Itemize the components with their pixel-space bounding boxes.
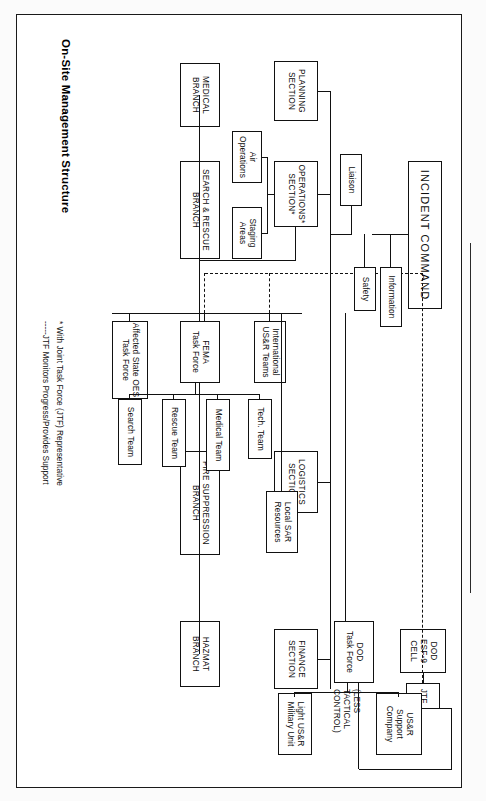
- node-air-operations[interactable]: Air Operations: [232, 131, 262, 183]
- node-information[interactable]: Information: [380, 267, 402, 327]
- link-bus-finance: [318, 659, 331, 660]
- link-ic-liaison: [351, 206, 352, 234]
- link-sar-dodtf: [345, 313, 346, 621]
- link-jtf-top: [451, 708, 452, 770]
- link-dodtf-light: [294, 692, 295, 697]
- node-safety[interactable]: Safety: [354, 267, 376, 311]
- node-affected-state-oes[interactable]: Affected State OES Task Force: [112, 321, 148, 399]
- node-staging-areas[interactable]: Staging Areas: [232, 207, 262, 259]
- node-medical-branch[interactable]: MEDICAL BRANCH: [180, 63, 220, 127]
- link-fema-tech: [259, 394, 260, 399]
- branch-bus-riser: [200, 260, 296, 261]
- scanned-page: On-Site Management Structure (LESS TACTI…: [0, 0, 486, 801]
- node-usr-support-company[interactable]: US&R Support Company: [376, 693, 422, 755]
- dashed-jtf-to-intl-usr: [269, 273, 270, 313]
- link-ops-subbus: [267, 157, 268, 233]
- link-fema-out: [195, 383, 196, 395]
- node-rescue-team[interactable]: Rescue Team: [162, 399, 186, 467]
- node-dod-task-force[interactable]: DOD Task Force: [334, 621, 374, 683]
- node-light-usr-military-unit[interactable]: Light US&R Military Unit: [278, 693, 312, 755]
- margin-rule: [470, 243, 471, 593]
- page-title: On-Site Management Structure: [60, 39, 72, 213]
- node-incident-command[interactable]: INCIDENT COMMAND: [408, 161, 442, 309]
- dashed-jtf-to-fema: [204, 273, 205, 313]
- link-sar-out: [199, 259, 200, 289]
- node-tech-team[interactable]: Tech. Team: [248, 399, 272, 459]
- footnote-jtf-rep: * With Joint Task Force (JTF) Representa…: [54, 321, 66, 486]
- link-sar-fema: [204, 313, 205, 321]
- section-bus: [330, 91, 331, 689]
- link-bus-logistics: [318, 482, 331, 483]
- link-fema-search: [129, 394, 130, 399]
- link-ic-safety: [364, 234, 365, 267]
- link-sar-localsar: [281, 313, 282, 491]
- node-planning-section[interactable]: PLANNING SECTION: [274, 61, 318, 121]
- link-bus-planning: [318, 91, 331, 92]
- link-sar-to-childbus: [199, 289, 200, 315]
- node-liaison[interactable]: Liaison: [340, 154, 362, 206]
- node-search-rescue-branch[interactable]: SEARCH & RESCUE BRANCH: [180, 161, 220, 259]
- fema-children-bus: [130, 394, 260, 395]
- link-fema-medical: [217, 394, 218, 399]
- node-hazmat-branch[interactable]: HAZMAT BRANCH: [180, 621, 220, 687]
- link-operations-down: [267, 194, 274, 195]
- link-branchbus-medical: [199, 127, 200, 161]
- sar-children-bus: [112, 313, 302, 314]
- link-ops-air: [262, 157, 268, 158]
- link-ic-information: [390, 234, 391, 267]
- link-bus-operations: [318, 194, 331, 195]
- dashed-jtf-monitor-main: [422, 273, 423, 683]
- link-fema-rescue: [173, 394, 174, 399]
- link-sar-oes: [129, 313, 130, 321]
- link-ic-to-bus: [330, 234, 352, 235]
- link-ops-staging: [262, 233, 268, 234]
- footnote-jtf-monitors: -----JTF Monitors Progress/Provides Supp…: [40, 321, 52, 485]
- org-chart-canvas: On-Site Management Structure (LESS TACTI…: [28, 21, 458, 781]
- node-local-sar-resources[interactable]: Local SAR Resources: [266, 491, 298, 553]
- link-dodtf-out: [347, 683, 348, 693]
- link-operations-to-branchbus: [295, 227, 296, 261]
- node-operations-section[interactable]: OPERATIONS* SECTION*: [274, 161, 318, 227]
- node-fema-task-force[interactable]: FEMA Task Force: [180, 321, 220, 383]
- link-dodtf-support: [398, 692, 399, 697]
- node-search-team[interactable]: Search Team: [118, 399, 142, 465]
- node-medical-team[interactable]: Medical Team: [206, 399, 230, 471]
- link-jtf-line-to-dodtf: [358, 683, 359, 769]
- link-jtf-to-dodtf: [359, 769, 452, 770]
- node-dod-esf9-cell[interactable]: DOD ESF-9 CELL: [400, 629, 446, 673]
- link-sar-intl: [269, 313, 270, 321]
- dodtf-children-bus: [295, 692, 399, 693]
- node-finance-section[interactable]: FINANCE SECTION: [274, 629, 318, 689]
